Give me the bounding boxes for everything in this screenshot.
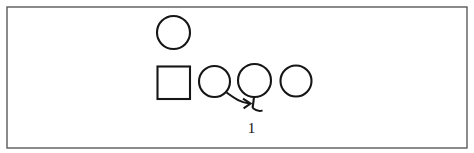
square-node[interactable] — [158, 67, 191, 100]
generation-label: 1 — [248, 120, 256, 136]
hook-icon — [253, 108, 263, 111]
circle-node-row-2[interactable] — [238, 64, 271, 97]
figure-frame-border — [7, 7, 467, 148]
circle-node-row-1[interactable] — [199, 66, 230, 97]
stem-hook-connector — [253, 97, 254, 108]
circle-node-top[interactable] — [157, 16, 190, 49]
figure-container: 1 — [0, 0, 474, 153]
pedigree-diagram: 1 — [0, 0, 474, 153]
circle-node-row-3[interactable] — [281, 66, 312, 97]
